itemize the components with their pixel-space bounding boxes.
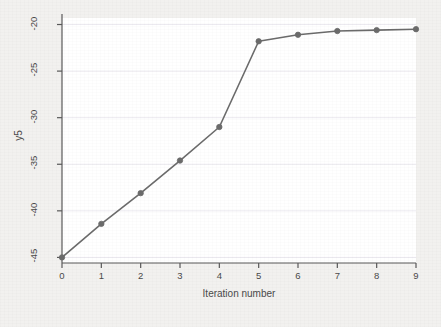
tick-marks (57, 25, 416, 268)
x-axis-title: Iteration number (62, 288, 416, 299)
y-tick-label: -20 (28, 6, 39, 40)
data-series-y5 (62, 29, 416, 257)
y-tick-label: -45 (28, 239, 39, 273)
y-tick-label: -25 (28, 53, 39, 87)
x-tick-label: 8 (367, 270, 387, 281)
axis-lines (62, 14, 416, 263)
x-tick-label: 0 (52, 270, 72, 281)
x-tick-label: 4 (209, 270, 229, 281)
data-markers (59, 26, 418, 260)
y-tick-label: -40 (28, 192, 39, 226)
x-tick-label: 1 (91, 270, 111, 281)
x-tick-label: 3 (170, 270, 190, 281)
x-tick-label: 5 (249, 270, 269, 281)
x-tick-label: 7 (327, 270, 347, 281)
gridlines (62, 25, 416, 258)
chart-figure: -45-40-35-30-25-20 0123456789 y5 Iterati… (0, 0, 441, 327)
x-tick-label: 6 (288, 270, 308, 281)
x-tick-label: 9 (406, 270, 426, 281)
y-tick-label: -35 (28, 146, 39, 180)
y-axis-title: y5 (13, 106, 24, 166)
y-tick-label: -30 (28, 99, 39, 133)
x-tick-label: 2 (131, 270, 151, 281)
